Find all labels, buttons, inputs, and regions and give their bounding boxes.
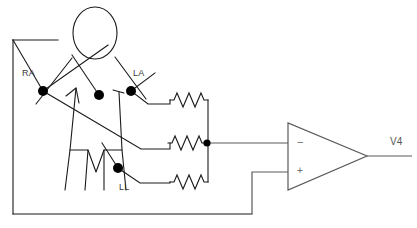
opamp-output-label: V4 — [390, 136, 403, 147]
electrode-label-ll: LL — [119, 182, 129, 192]
leg-gap-outline — [88, 150, 104, 172]
electrode-label-la: LA — [133, 68, 144, 78]
opamp-triangle — [288, 123, 367, 190]
la-to-top-resistor-wire — [131, 91, 170, 104]
electrode-dot-ra[interactable] — [38, 86, 48, 96]
summing-node-dot — [203, 139, 210, 146]
resistor-top — [170, 93, 208, 107]
head-outline — [73, 7, 117, 59]
patient-figure — [36, 7, 146, 190]
electrode-lead-wires — [43, 45, 155, 168]
electrode-label-ra: RA — [22, 68, 35, 78]
left-leg-outline — [70, 150, 88, 190]
resistor-bottom — [170, 175, 208, 189]
ra-to-left-bus-wire — [13, 40, 43, 91]
operational-amplifier — [288, 123, 412, 190]
ra-to-middle-resistor-wire — [43, 91, 170, 149]
electrode-dot-la[interactable] — [126, 86, 136, 96]
resistor-top-zigzag — [170, 93, 208, 107]
circuit-schematic-svg — [0, 0, 417, 228]
torso-right-outline — [119, 92, 126, 190]
ra-lead-wire — [43, 45, 108, 91]
ground-to-noninverting-input-wire — [252, 172, 288, 214]
left-bus-wiring — [13, 40, 252, 214]
resistor-middle-zigzag — [168, 136, 207, 150]
resistor-middle — [168, 136, 207, 150]
resistor-bottom-zigzag — [170, 175, 208, 189]
electrode-dot-center[interactable] — [94, 90, 104, 100]
torso-left-outline — [65, 88, 76, 190]
ll-to-bottom-resistor-wire — [118, 168, 170, 183]
opamp-inverting-input-label: − — [297, 137, 303, 148]
electrode-dot-ll[interactable] — [113, 163, 123, 173]
schematic-canvas: RA LA LL V4 − + — [0, 0, 417, 228]
opamp-noninverting-input-label: + — [297, 166, 303, 176]
left-shoulder-outline — [66, 88, 79, 103]
